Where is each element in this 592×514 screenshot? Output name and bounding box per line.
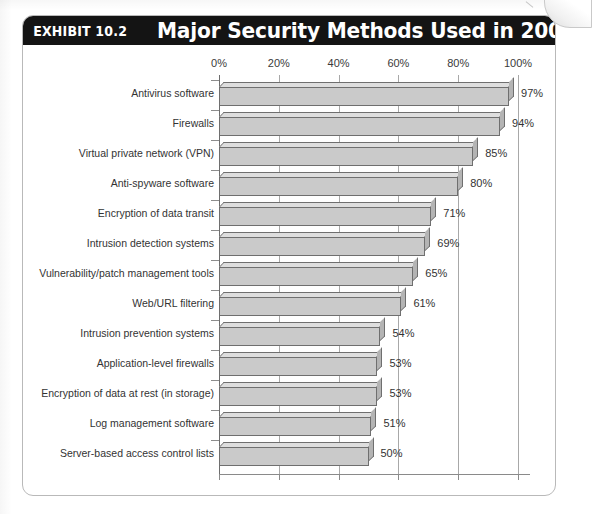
y-tick-mark bbox=[211, 170, 219, 171]
x-tick-label: 40% bbox=[328, 57, 350, 69]
bar-value-label: 85% bbox=[485, 138, 507, 168]
bar bbox=[219, 142, 473, 166]
y-tick-mark bbox=[211, 200, 219, 201]
exhibit-number: EXHIBIT 10.2 bbox=[23, 23, 127, 39]
page-curl-mark bbox=[526, 1, 534, 7]
bar-value-label: 53% bbox=[389, 348, 411, 378]
bar-row: Log management software51% bbox=[23, 408, 556, 438]
bar-value-label: 53% bbox=[389, 378, 411, 408]
y-tick-mark bbox=[211, 290, 219, 291]
bar-side-face bbox=[377, 347, 382, 371]
bar bbox=[219, 352, 377, 376]
exhibit-panel: EXHIBIT 10.2 Major Security Methods Used… bbox=[22, 15, 556, 496]
bar-row: Firewalls94% bbox=[23, 108, 556, 138]
bar-side-face bbox=[401, 287, 406, 311]
bar-value-label: 71% bbox=[443, 198, 465, 228]
bar-row: Server-based access control lists50% bbox=[23, 438, 556, 468]
bar bbox=[219, 112, 500, 136]
category-label: Web/URL filtering bbox=[22, 288, 214, 318]
exhibit-title-bar: EXHIBIT 10.2 Major Security Methods Used… bbox=[23, 16, 556, 45]
bar-value-label: 65% bbox=[425, 258, 447, 288]
y-tick-mark bbox=[211, 230, 219, 231]
category-label: Log management software bbox=[22, 408, 214, 438]
bar bbox=[219, 382, 377, 406]
bar-row: Encryption of data transit71% bbox=[23, 198, 556, 228]
y-tick-mark bbox=[211, 140, 219, 141]
bar-value-label: 50% bbox=[381, 438, 403, 468]
bar-row: Vulnerability/patch management tools65% bbox=[23, 258, 556, 288]
chart-plot-area: 0%20%40%60%80%100% Antivirus software97%… bbox=[23, 45, 556, 496]
bar-value-label: 54% bbox=[392, 318, 414, 348]
y-tick-mark bbox=[211, 380, 219, 381]
bar-value-label: 94% bbox=[512, 108, 534, 138]
bar-front-face bbox=[219, 147, 473, 166]
bar-side-face bbox=[377, 377, 382, 401]
bar-front-face bbox=[219, 237, 425, 256]
bar-side-face bbox=[431, 197, 436, 221]
bar-side-face bbox=[458, 167, 463, 191]
bar-front-face bbox=[219, 207, 431, 226]
x-tick-mark bbox=[339, 474, 340, 480]
bar-value-label: 80% bbox=[470, 168, 492, 198]
bar-row: Intrusion prevention systems54% bbox=[23, 318, 556, 348]
category-label: Antivirus software bbox=[22, 78, 214, 108]
bar-side-face bbox=[500, 107, 505, 131]
bar-front-face bbox=[219, 387, 377, 406]
bar-front-face bbox=[219, 117, 500, 136]
bar bbox=[219, 82, 509, 106]
bar-side-face bbox=[425, 227, 430, 251]
bar-front-face bbox=[219, 327, 380, 346]
y-tick-mark bbox=[211, 410, 219, 411]
x-tick-label: 0% bbox=[211, 57, 227, 69]
bar bbox=[219, 232, 425, 256]
y-tick-mark bbox=[211, 440, 219, 441]
bar-row: Anti-spyware software80% bbox=[23, 168, 556, 198]
bar bbox=[219, 172, 458, 196]
bar-front-face bbox=[219, 297, 401, 316]
bar-row: Web/URL filtering61% bbox=[23, 288, 556, 318]
bar-front-face bbox=[219, 447, 369, 466]
category-label: Vulnerability/patch management tools bbox=[22, 258, 214, 288]
bar bbox=[219, 412, 371, 436]
x-tick-label: 20% bbox=[268, 57, 290, 69]
category-label: Intrusion detection systems bbox=[22, 228, 214, 258]
category-label: Anti-spyware software bbox=[22, 168, 214, 198]
bar-row: Virtual private network (VPN)85% bbox=[23, 138, 556, 168]
bar bbox=[219, 262, 413, 286]
y-tick-mark bbox=[211, 260, 219, 261]
bar-value-label: 51% bbox=[383, 408, 405, 438]
category-label: Encryption of data at rest (in storage) bbox=[22, 378, 214, 408]
category-label: Server-based access control lists bbox=[22, 438, 214, 468]
y-tick-mark bbox=[211, 350, 219, 351]
bar bbox=[219, 202, 431, 226]
y-tick-mark bbox=[211, 320, 219, 321]
category-label: Virtual private network (VPN) bbox=[22, 138, 214, 168]
bar-value-label: 69% bbox=[437, 228, 459, 258]
bar-front-face bbox=[219, 417, 371, 436]
category-label: Firewalls bbox=[22, 108, 214, 138]
bar-side-face bbox=[380, 317, 385, 341]
category-label: Encryption of data transit bbox=[22, 198, 214, 228]
bar-side-face bbox=[473, 137, 478, 161]
bar-value-label: 61% bbox=[413, 288, 435, 318]
bar bbox=[219, 442, 369, 466]
bar-side-face bbox=[369, 437, 374, 461]
x-tick-mark bbox=[398, 474, 399, 480]
x-tick-label: 100% bbox=[504, 57, 532, 69]
bar-row: Intrusion detection systems69% bbox=[23, 228, 556, 258]
bar-side-face bbox=[509, 77, 514, 101]
bar-row: Antivirus software97% bbox=[23, 78, 556, 108]
x-tick-mark bbox=[219, 474, 220, 480]
x-tick-label: 60% bbox=[387, 57, 409, 69]
x-tick-mark bbox=[458, 474, 459, 480]
bar-front-face bbox=[219, 267, 413, 286]
x-tick-mark bbox=[279, 474, 280, 480]
category-label: Application-level firewalls bbox=[22, 348, 214, 378]
y-tick-mark bbox=[211, 110, 219, 111]
bar-side-face bbox=[371, 407, 376, 431]
x-axis-line bbox=[219, 474, 530, 475]
category-label: Intrusion prevention systems bbox=[22, 318, 214, 348]
bar-front-face bbox=[219, 177, 458, 196]
x-tick-label: 80% bbox=[447, 57, 469, 69]
x-tick-mark bbox=[518, 474, 519, 480]
